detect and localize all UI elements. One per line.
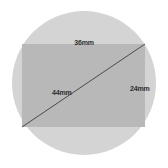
dimension-label-right: 24mm <box>130 85 149 92</box>
dimension-label-top: 36mm <box>74 39 93 46</box>
figure-stage: 36mm 24mm 44mm <box>0 0 168 168</box>
dimension-label-diagonal: 44mm <box>52 89 71 96</box>
geometry-diagram: 36mm 24mm 44mm <box>0 0 168 168</box>
